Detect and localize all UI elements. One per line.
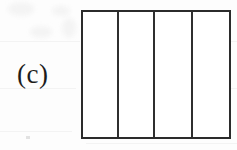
scan-artifact xyxy=(26,136,30,139)
scan-artifact xyxy=(0,131,72,132)
figure-container: (c) xyxy=(0,0,237,150)
scan-artifact xyxy=(86,143,237,144)
scan-artifact xyxy=(52,6,70,16)
square-fill xyxy=(82,11,230,138)
scan-artifact xyxy=(8,2,34,16)
scan-artifact xyxy=(0,41,80,42)
scan-artifact xyxy=(30,26,52,38)
panel-label: (c) xyxy=(17,57,57,91)
scan-artifact xyxy=(62,18,76,38)
subdivided-square xyxy=(81,10,231,139)
subdivided-square-svg xyxy=(81,10,231,139)
